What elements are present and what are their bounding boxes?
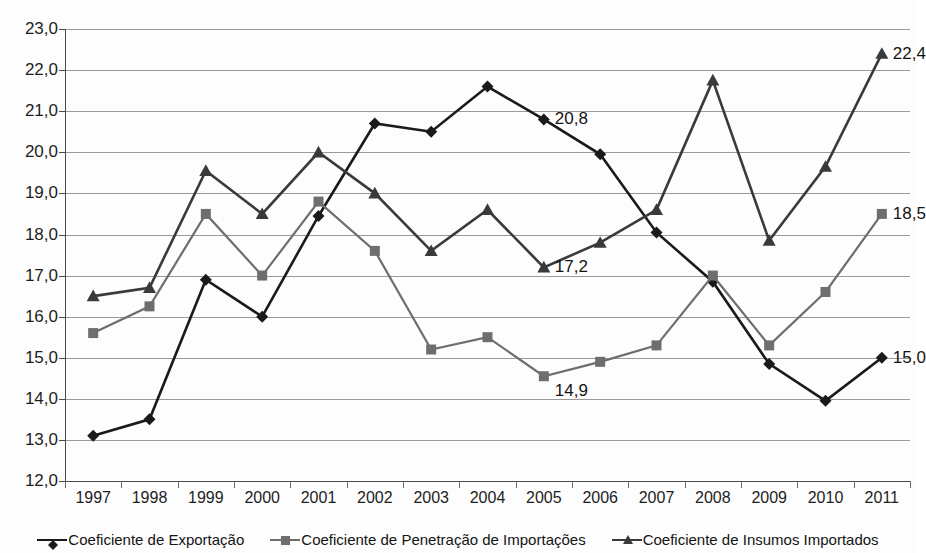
square-marker-icon [595,357,605,367]
x-axis-tick [65,481,66,488]
y-axis-tick-label: 17,0 [0,266,58,286]
legend-label: Coeficiente de Penetração de Importações [301,531,585,548]
series-square [88,197,887,382]
y-axis-tick-label: 15,0 [0,348,58,368]
square-marker-icon [201,209,211,219]
diamond-marker-icon [538,113,550,125]
x-axis-tick-label: 2006 [582,489,618,507]
square-marker-icon [426,345,436,355]
x-axis-tick-label: 1999 [188,489,224,507]
x-axis-tick [854,481,855,488]
square-marker-icon [877,209,887,219]
legend-label: Coeficiente de Insumos Importados [643,531,879,548]
triangle-marker-icon [706,74,719,86]
y-axis-tick-label: 19,0 [0,183,58,203]
triangle-marker-icon [819,160,832,172]
diamond-lower-half [48,545,58,553]
x-axis-tick-label: 2000 [244,489,280,507]
square-marker-icon [314,197,324,207]
x-axis-tick [685,481,686,488]
y-axis-line [65,29,66,482]
triangle-marker-icon [199,164,212,176]
y-axis-tick-label: 22,0 [0,60,58,80]
triangle-marker-icon [312,146,325,158]
x-axis-tick [797,481,798,488]
x-axis-tick [234,481,235,488]
x-axis-tick-label: 2001 [301,489,337,507]
x-axis-tick-label: 1997 [75,489,111,507]
data-point-label: 18,5 [893,204,926,224]
y-axis-tick-label: 21,0 [0,101,58,121]
x-axis-tick [121,481,122,488]
legend-item[interactable]: Coeficiente de Penetração de Importações [270,531,585,548]
plot-area [65,29,910,481]
x-axis-tick [516,481,517,488]
diamond-marker-icon [48,535,58,545]
square-marker-icon [257,271,267,281]
x-axis-tick-label: 1998 [132,489,168,507]
x-axis-line [65,481,911,482]
y-axis-tick-label: 12,0 [0,471,58,491]
x-axis-tick [178,481,179,488]
triangle-marker-icon [594,236,607,248]
x-axis-tick-label: 2003 [413,489,449,507]
triangle-marker-icon [875,47,888,59]
triangle-marker-icon [623,535,633,544]
x-axis-tick [459,481,460,488]
x-axis-tick [572,481,573,488]
square-marker-icon [370,246,380,256]
square-marker-icon [483,332,493,342]
data-point-label: 17,2 [555,257,588,277]
x-axis-tick-label: 2008 [695,489,731,507]
x-axis-tick-label: 2011 [865,489,899,507]
square-marker-icon [652,340,662,350]
triangle-marker-icon [481,203,494,215]
x-axis-tick [290,481,291,488]
series-line [93,87,882,436]
triangle-marker-icon [650,203,663,215]
diamond-marker-icon [313,210,325,222]
series-diamond [87,81,888,442]
x-axis-tick-label: 2004 [470,489,506,507]
legend-item[interactable]: Coeficiente de Insumos Importados [612,531,879,548]
y-axis-tick-label: 20,0 [0,142,58,162]
square-marker-icon [270,534,300,546]
legend-item[interactable]: Coeficiente de Exportação [37,531,244,548]
y-axis-tick-label: 13,0 [0,430,58,450]
x-axis-tick [741,481,742,488]
x-axis-tick-label: 2009 [751,489,787,507]
series-layer [65,29,910,481]
x-axis-tick-label: 2010 [808,489,844,507]
x-axis-tick-label: 2007 [639,489,675,507]
diamond-marker-icon [87,430,99,442]
x-axis-tick [628,481,629,488]
square-marker-icon [281,536,290,545]
square-marker-icon [764,340,774,350]
y-axis-tick-label: 23,0 [0,19,58,39]
square-marker-icon [539,371,549,381]
diamond-marker-icon [369,118,381,130]
legend-label: Coeficiente de Exportação [68,531,244,548]
square-marker-icon [708,271,718,281]
triangle-marker-icon [612,534,642,546]
chart-legend: Coeficiente de ExportaçãoCoeficiente de … [0,526,916,553]
x-axis-tick [910,481,911,488]
square-marker-icon [821,287,831,297]
diamond-marker-icon [37,534,67,546]
square-marker-icon [88,328,98,338]
data-point-label: 20,8 [555,109,588,129]
data-point-label: 14,9 [555,381,588,401]
x-axis-tick-label: 2005 [526,489,562,507]
y-axis-tick-label: 14,0 [0,389,58,409]
data-point-label: 22,4 [893,44,926,64]
x-axis-tick [347,481,348,488]
y-axis-tick-label: 16,0 [0,307,58,327]
data-point-label: 15,0 [893,348,926,368]
x-axis-tick-label: 2002 [357,489,393,507]
y-axis-tick-label: 18,0 [0,225,58,245]
diamond-marker-icon [144,413,156,425]
square-marker-icon [145,301,155,311]
x-axis-tick [403,481,404,488]
